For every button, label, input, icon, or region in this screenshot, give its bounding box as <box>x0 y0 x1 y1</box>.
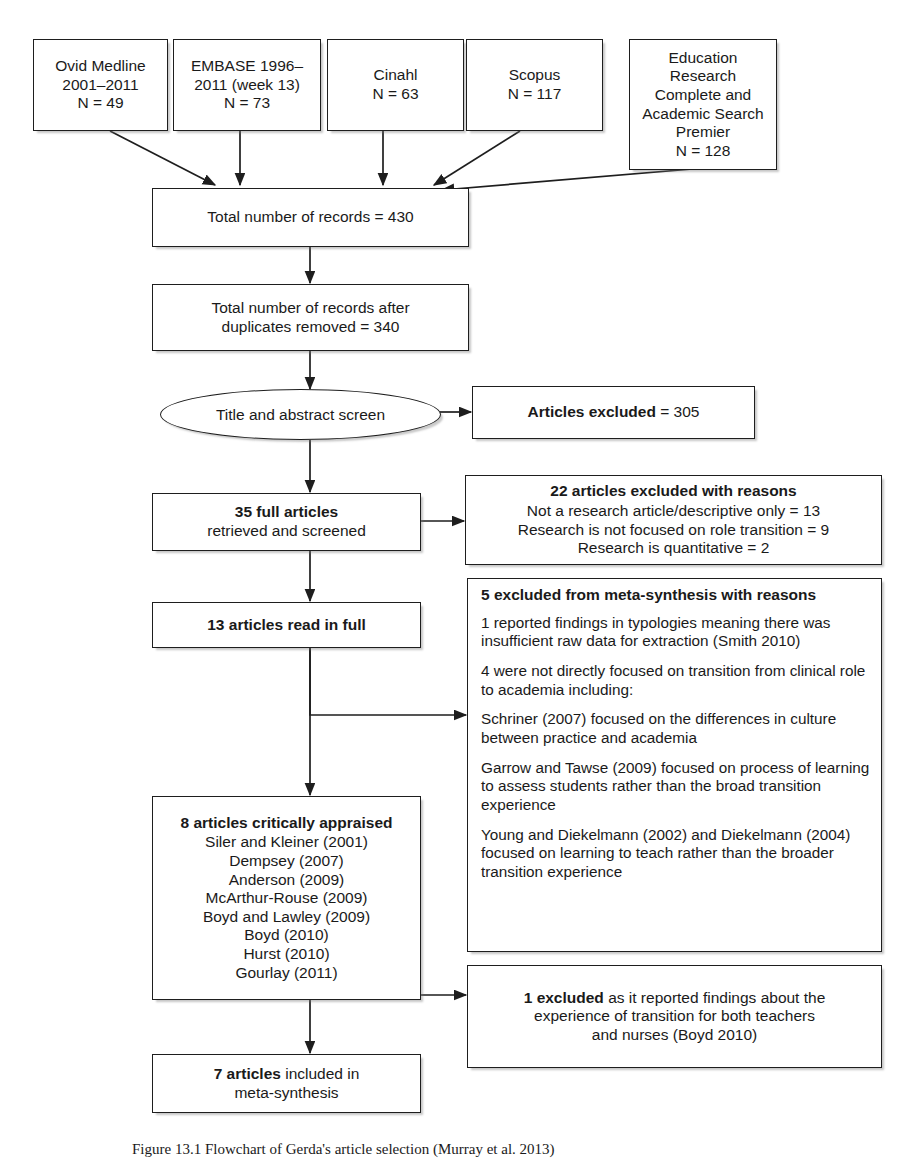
included-line-2: meta-synthesis <box>234 1084 338 1103</box>
source-line: Complete and <box>655 86 752 105</box>
critically-appraised-heading: 8 articles critically appraised <box>181 814 393 833</box>
appraised-item: Gourlay (2011) <box>235 964 337 983</box>
total-records-box: Total number of records = 430 <box>152 188 469 247</box>
meta-exclusion-paragraph: 1 reported findings in typologies meanin… <box>481 614 870 651</box>
source-line: Ovid Medline <box>55 57 145 76</box>
articles-excluded-label: Articles excluded <box>528 403 656 420</box>
title-abstract-screen-ellipse: Title and abstract screen <box>160 389 441 440</box>
source-line: Cinahl <box>374 66 418 85</box>
flowchart-canvas: Ovid Medline 2001–2011 N = 49 EMBASE 199… <box>0 0 908 1160</box>
meta-exclusion-paragraph: Schriner (2007) focused on the differenc… <box>481 710 870 747</box>
edge-ovid-to-total <box>110 131 215 185</box>
edge-read-to-meta5 <box>310 648 466 715</box>
appraised-item: Siler and Kleiner (2001) <box>205 833 368 852</box>
included-count: 7 articles <box>214 1065 281 1082</box>
reason-item: Not a research article/descriptive only … <box>527 502 820 521</box>
excluded-1-line-1: 1 excluded as it reported findings about… <box>524 989 826 1008</box>
source-line: Scopus <box>509 66 561 85</box>
total-records-label: Total number of records = 430 <box>207 208 413 227</box>
excluded-1-line-2: experience of transition for both teache… <box>534 1007 815 1026</box>
appraised-item: Dempsey (2007) <box>229 852 344 871</box>
read-in-full-label: 13 articles read in full <box>207 616 366 635</box>
source-box-education-research-complete: Education Research Complete and Academic… <box>629 39 777 170</box>
excluded-1-count: 1 excluded <box>524 989 604 1006</box>
appraised-item: Boyd (2010) <box>244 926 328 945</box>
appraised-item: Hurst (2010) <box>243 945 329 964</box>
source-line: Premier <box>676 123 730 142</box>
included-box: 7 articles included in meta-synthesis <box>152 1054 421 1113</box>
articles-excluded-text: Articles excluded = 305 <box>528 403 700 422</box>
appraised-item: Anderson (2009) <box>229 871 344 890</box>
meta-exclusion-paragraph: Garrow and Tawse (2009) focused on proce… <box>481 759 870 815</box>
source-line: N = 49 <box>77 94 123 113</box>
source-box-cinahl: Cinahl N = 63 <box>327 39 464 131</box>
critically-appraised-box: 8 articles critically appraised Siler an… <box>152 796 421 1000</box>
excluded-1-box: 1 excluded as it reported findings about… <box>467 965 882 1068</box>
full-articles-box: 35 full articles retrieved and screened <box>152 493 421 551</box>
reason-item: Research is not focused on role transiti… <box>518 521 829 540</box>
excluded-1-line-3: and nurses (Boyd 2010) <box>592 1026 757 1045</box>
meta-exclusion-paragraph: Young and Diekelmann (2002) and Diekelma… <box>481 826 870 882</box>
after-duplicates-line: Total number of records after <box>211 299 409 318</box>
reason-item: Research is quantitative = 2 <box>578 539 770 558</box>
full-articles-detail: retrieved and screened <box>207 522 366 541</box>
source-line: Education <box>669 49 738 68</box>
articles-excluded-count: = 305 <box>656 403 700 420</box>
source-line: 2011 (week 13) <box>194 76 300 95</box>
source-line: 2001–2011 <box>62 76 138 95</box>
source-box-embase: EMBASE 1996– 2011 (week 13) N = 73 <box>173 39 321 131</box>
source-line: N = 128 <box>676 142 731 161</box>
reasons-22-heading: 22 articles excluded with reasons <box>550 482 796 501</box>
read-in-full-box: 13 articles read in full <box>152 602 421 648</box>
source-line: EMBASE 1996– <box>191 57 303 76</box>
source-box-scopus: Scopus N = 117 <box>466 39 603 131</box>
source-line: Academic Search <box>642 105 763 124</box>
meta-synthesis-exclusions-box: 5 excluded from meta-synthesis with reas… <box>467 578 882 952</box>
articles-excluded-box: Articles excluded = 305 <box>472 386 755 439</box>
included-line-1: 7 articles included in <box>214 1065 360 1084</box>
screen-label: Title and abstract screen <box>216 406 385 424</box>
source-line: N = 117 <box>508 85 562 104</box>
included-rest: included in <box>281 1065 359 1082</box>
excluded-1-rest: as it reported findings about the <box>604 989 825 1006</box>
after-duplicates-box: Total number of records after duplicates… <box>152 284 469 351</box>
edge-scopus-to-total <box>434 131 520 185</box>
meta-exclusion-paragraph: 4 were not directly focused on transitio… <box>481 662 870 699</box>
source-line: N = 73 <box>224 94 270 113</box>
appraised-item: McArthur-Rouse (2009) <box>206 889 368 908</box>
after-duplicates-line: duplicates removed = 340 <box>222 318 400 337</box>
appraised-item: Boyd and Lawley (2009) <box>203 908 370 927</box>
meta-exclusions-heading: 5 excluded from meta-synthesis with reas… <box>481 586 870 605</box>
reasons-22-box: 22 articles excluded with reasons Not a … <box>465 475 882 565</box>
source-line: N = 63 <box>372 85 418 104</box>
source-line: Research <box>670 67 736 86</box>
source-box-ovid-medline: Ovid Medline 2001–2011 N = 49 <box>33 39 168 131</box>
figure-caption: Figure 13.1 Flowchart of Gerda's article… <box>132 1141 555 1158</box>
full-articles-count: 35 full articles <box>235 503 338 522</box>
